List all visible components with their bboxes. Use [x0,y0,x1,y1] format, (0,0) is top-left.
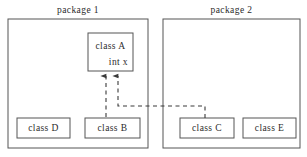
class-a-attribute: int x [88,56,128,68]
dependency-arrow-c-to-a[interactable] [118,76,205,118]
class-e-title: class E [243,122,296,134]
class-b-title: class B [85,122,140,134]
package-1-label: package 1 [8,4,148,16]
package-2-label: package 2 [163,4,300,16]
package-dependency-diagram: package 1 package 2 class A int x class … [0,0,307,157]
class-a-title: class A [88,40,133,52]
class-d-title: class D [17,122,70,134]
class-c-title: class C [180,122,234,134]
